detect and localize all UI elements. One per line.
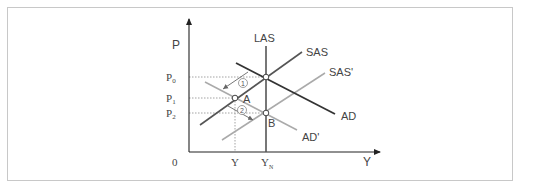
point-b xyxy=(263,110,269,116)
p2-label: P2 xyxy=(166,107,176,121)
p0-label: P0 xyxy=(166,71,176,85)
svg-text:2: 2 xyxy=(240,107,244,114)
axes xyxy=(189,19,380,152)
y-axis-label: P xyxy=(172,38,180,52)
guide-lines xyxy=(189,77,266,152)
origin-label: 0 xyxy=(172,156,178,168)
svg-text:1: 1 xyxy=(241,80,245,87)
p1-label: P1 xyxy=(166,92,176,106)
sas-prime-label: SAS' xyxy=(329,66,353,78)
point-b-label: B xyxy=(268,117,275,129)
x-axis-label: Y xyxy=(363,155,371,169)
point-a-label: A xyxy=(243,93,251,105)
ad-prime-label: AD' xyxy=(302,131,319,143)
ad-as-diagram: 1 2 P Y 0 LAS SAS SAS' AD AD' A B P0 P1 … xyxy=(0,0,552,193)
yn-level-label: YN xyxy=(261,156,274,170)
ad-label: AD xyxy=(341,110,356,122)
step-marker-1: 1 xyxy=(239,79,248,88)
point-e0 xyxy=(263,74,269,80)
y-level-label: Y xyxy=(231,156,239,168)
step-marker-2: 2 xyxy=(238,106,247,115)
sas-label: SAS xyxy=(306,46,328,58)
las-label: LAS xyxy=(254,32,275,44)
point-a xyxy=(232,95,238,101)
